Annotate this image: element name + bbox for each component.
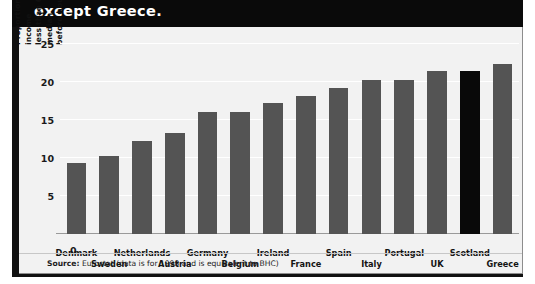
y-tick-label-10: 10 bbox=[41, 153, 54, 164]
bar-belgium bbox=[230, 112, 250, 234]
x-label-france: France bbox=[290, 259, 321, 269]
bar-denmark bbox=[67, 163, 87, 234]
left-rail-decoration bbox=[12, 27, 19, 274]
bar-scotland bbox=[460, 71, 480, 234]
bar-spain bbox=[329, 88, 349, 234]
source-note: Source: Eurostat (data is for 1998 and i… bbox=[47, 259, 279, 268]
bar-uk bbox=[427, 71, 447, 234]
bar-france bbox=[296, 96, 316, 234]
bar-series bbox=[60, 44, 519, 234]
bar-sweden bbox=[99, 156, 119, 234]
source-prefix: Source: bbox=[47, 259, 80, 268]
y-axis-title-line-1: Proportion of the population with an inc… bbox=[13, 0, 34, 45]
y-tick-label-15: 15 bbox=[41, 115, 54, 126]
source-divider bbox=[19, 253, 522, 254]
plot-area: 510152025 bbox=[60, 44, 519, 234]
x-label-greece: Greece bbox=[486, 259, 518, 269]
bar-netherlands bbox=[132, 141, 152, 234]
y-tick-label-25: 25 bbox=[41, 39, 54, 50]
bottom-rule-decoration bbox=[12, 274, 523, 277]
headline-band: except Greece. bbox=[12, 0, 523, 27]
x-label-italy: Italy bbox=[361, 259, 382, 269]
y-axis-title: Proportion of the population with an inc… bbox=[13, 0, 66, 45]
x-label-uk: UK bbox=[431, 259, 444, 269]
bar-italy bbox=[362, 80, 382, 234]
y-axis-title-line-3: before housing costs (per cent) bbox=[55, 0, 66, 45]
bar-greece bbox=[493, 64, 513, 234]
bar-portugal bbox=[394, 80, 414, 234]
chart-figure: except Greece. Proportion of the populat… bbox=[0, 0, 535, 284]
bar-germany bbox=[198, 112, 218, 234]
y-tick-label-20: 20 bbox=[41, 77, 54, 88]
source-detail: Eurostat (data is for 1998 and is equiva… bbox=[82, 259, 279, 268]
y-tick-label-5: 5 bbox=[47, 191, 54, 202]
bar-ireland bbox=[263, 103, 283, 234]
bar-austria bbox=[165, 133, 185, 234]
chart-panel: Proportion of the population with an inc… bbox=[19, 27, 523, 274]
